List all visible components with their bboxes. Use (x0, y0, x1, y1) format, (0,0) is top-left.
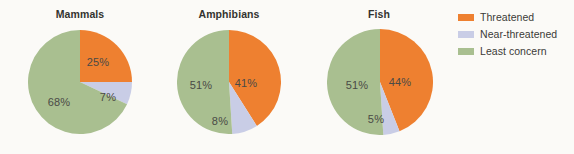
pie-title-mammals: Mammals (8, 8, 152, 20)
legend-swatch-least-concern (458, 48, 474, 55)
slice-label-mammals-threatened: 25% (87, 56, 110, 68)
legend-item-least-concern[interactable]: Least concern (458, 43, 570, 59)
pie-chart-fish: Fish 44% 5% 51% (306, 8, 452, 154)
legend-label-near-threatened: Near-threatened (480, 28, 557, 40)
pie-chart-figure: Mammals 25% 7% 68% Amphibians 41% 8% 51%… (0, 0, 574, 154)
legend-item-near-threatened[interactable]: Near-threatened (458, 26, 570, 42)
slice-label-amphibians-threatened: 41% (235, 77, 258, 89)
legend-label-threatened: Threatened (480, 11, 534, 23)
pie-title-amphibians: Amphibians (157, 8, 301, 20)
pie-svg-mammals (28, 30, 132, 134)
slice-label-mammals-least-concern: 68% (48, 96, 71, 108)
slice-label-mammals-near-threatened: 7% (100, 91, 116, 103)
pie-canvas-fish: 44% 5% 51% (327, 29, 433, 135)
legend-label-least-concern: Least concern (480, 45, 547, 57)
legend-swatch-near-threatened (458, 31, 474, 38)
chart-legend: Threatened Near-threatened Least concern (458, 9, 570, 60)
pie-canvas-mammals: 25% 7% 68% (28, 30, 132, 134)
slice-label-fish-near-threatened: 5% (368, 113, 384, 125)
slice-label-fish-threatened: 44% (389, 76, 412, 88)
legend-item-threatened[interactable]: Threatened (458, 9, 570, 25)
pie-title-fish: Fish (306, 8, 452, 20)
pie-chart-amphibians: Amphibians 41% 8% 51% (157, 8, 301, 154)
slice-label-amphibians-least-concern: 51% (190, 79, 213, 91)
pie-slices-mammals (28, 30, 132, 134)
pie-chart-mammals: Mammals 25% 7% 68% (8, 8, 152, 154)
legend-swatch-threatened (458, 14, 474, 21)
slice-label-amphibians-near-threatened: 8% (212, 115, 228, 127)
slice-label-fish-least-concern: 51% (346, 79, 369, 91)
pie-canvas-amphibians: 41% 8% 51% (177, 30, 281, 134)
